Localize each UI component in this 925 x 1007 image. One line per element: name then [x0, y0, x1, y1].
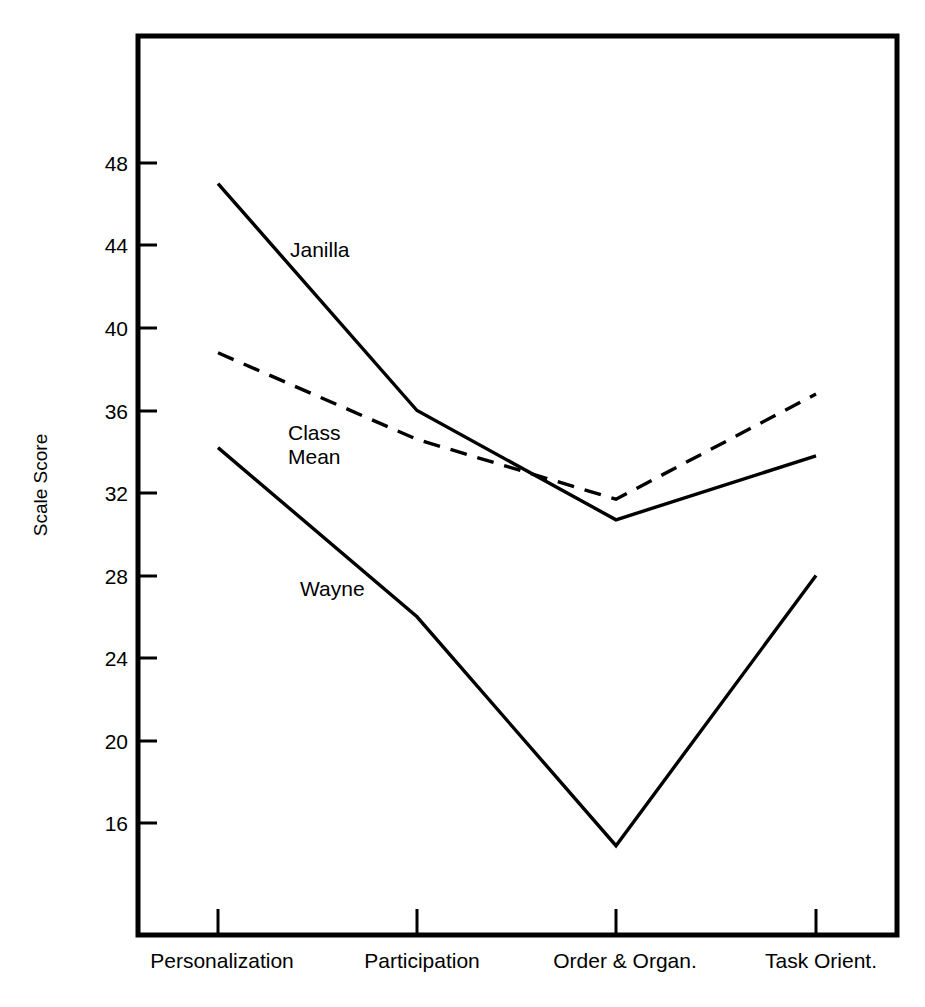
y-axis-ticks: [138, 163, 157, 823]
series-group: [218, 184, 816, 846]
y-tick-label-16: 16: [105, 812, 128, 835]
y-tick-label-44: 44: [105, 234, 129, 257]
y-tick-label-40: 40: [105, 317, 128, 340]
annotation-wayne: Wayne: [300, 577, 365, 600]
x-axis-ticks: [218, 909, 816, 935]
y-tick-label-32: 32: [105, 482, 128, 505]
y-axis-tick-labels: 48 44 40 36 32 28 24 20 16: [105, 152, 129, 835]
x-label-order-organ: Order & Organ.: [553, 949, 697, 972]
y-axis-title: Scale Score: [30, 434, 51, 536]
x-label-task-orient: Task Orient.: [765, 949, 877, 972]
y-tick-label-36: 36: [105, 400, 128, 423]
series-line-wayne: [218, 448, 816, 846]
chart-figure: 48 44 40 36 32 28 24 20 16 Scale Score P…: [0, 0, 925, 1007]
series-annotations: Janilla Class Mean Wayne: [288, 238, 365, 600]
annotation-class: Class: [288, 421, 341, 444]
x-axis-category-labels: Personalization Participation Order & Or…: [150, 949, 877, 972]
line-chart: 48 44 40 36 32 28 24 20 16 Scale Score P…: [0, 0, 925, 1007]
y-tick-label-20: 20: [105, 730, 128, 753]
x-label-personalization: Personalization: [150, 949, 294, 972]
y-tick-label-28: 28: [105, 565, 128, 588]
x-label-participation: Participation: [364, 949, 480, 972]
y-tick-label-24: 24: [105, 647, 129, 670]
plot-frame: [138, 36, 897, 935]
annotation-mean: Mean: [288, 445, 341, 468]
annotation-janilla: Janilla: [290, 238, 350, 261]
y-tick-label-48: 48: [105, 152, 128, 175]
plot-border: [138, 36, 897, 935]
